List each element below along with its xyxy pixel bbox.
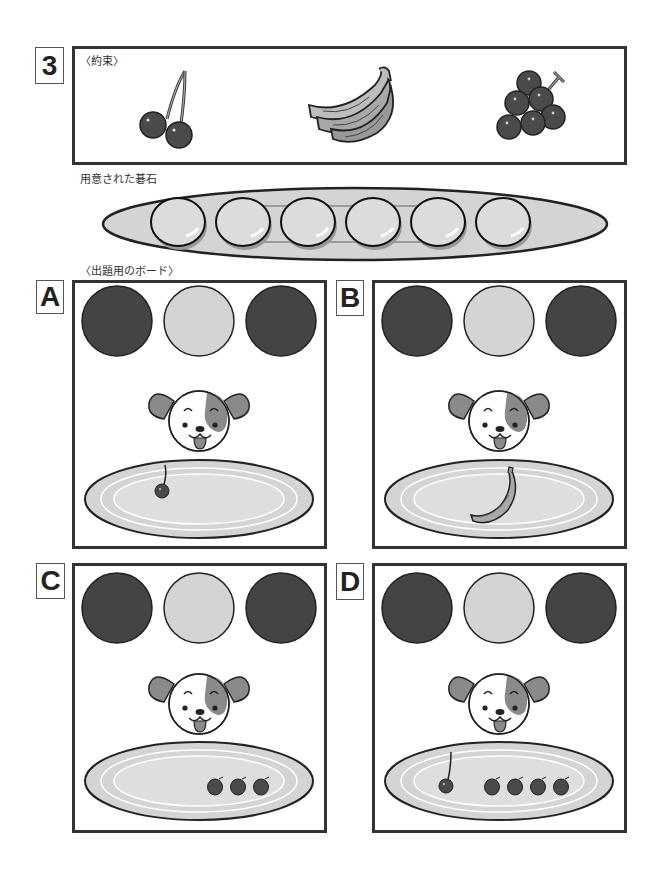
- light-circle: [464, 573, 534, 643]
- board-d[interactable]: [372, 563, 627, 833]
- board-label-c[interactable]: C: [36, 563, 65, 599]
- dark-circle: [246, 286, 316, 356]
- problem-number: 3: [42, 50, 58, 82]
- plate-icon: [85, 460, 313, 538]
- dark-circle: [382, 286, 452, 356]
- dark-circle: [82, 286, 152, 356]
- board-b[interactable]: [372, 280, 627, 549]
- light-circle: [464, 286, 534, 356]
- dog-face-icon: [149, 674, 249, 734]
- circle-row: [82, 286, 316, 356]
- rule-box: 〈約束〉: [72, 46, 627, 165]
- grape-icon: [208, 777, 270, 795]
- cherry-icon: [135, 67, 205, 147]
- problem-number-label: 3: [35, 47, 64, 84]
- dark-circle: [246, 573, 316, 643]
- light-circle: [164, 573, 234, 643]
- dark-circle: [546, 573, 616, 643]
- dog-face-icon: [149, 391, 249, 451]
- board-a[interactable]: [72, 280, 327, 549]
- grapes-icon: [493, 67, 573, 147]
- board-c[interactable]: [72, 563, 327, 833]
- rule-caption: 〈約束〉: [80, 52, 124, 68]
- circle-row: [82, 573, 316, 643]
- plate-icon: [85, 742, 313, 820]
- boards-caption: 〈出題用のボード〉: [80, 262, 179, 278]
- plate-icon: [385, 742, 613, 820]
- banana-icon: [303, 65, 403, 145]
- dog-face-icon: [449, 391, 549, 451]
- dark-circle: [546, 286, 616, 356]
- dog-face-icon: [449, 674, 549, 734]
- circle-row: [382, 573, 616, 643]
- light-circle: [164, 286, 234, 356]
- dark-circle: [382, 573, 452, 643]
- circle-row: [382, 286, 616, 356]
- board-label-d[interactable]: D: [336, 563, 364, 600]
- plate-icon: [385, 460, 613, 538]
- dark-circle: [82, 573, 152, 643]
- board-label-a[interactable]: A: [36, 280, 64, 314]
- stone-tray-icon: [100, 184, 610, 264]
- board-label-b[interactable]: B: [336, 280, 364, 316]
